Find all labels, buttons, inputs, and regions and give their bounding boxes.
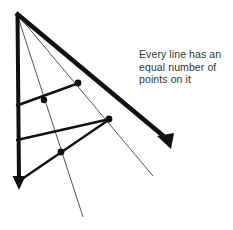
caption-text: Every line has an equal number of points…: [139, 48, 233, 86]
vertical-ray-line: [18, 14, 20, 180]
point-lower-thin-left: [58, 149, 65, 156]
thin-ray-right-line: [17, 14, 153, 176]
thin-rays: [17, 14, 153, 217]
point-middle-diagonal: [106, 116, 113, 123]
arrowhead-down-icon: [13, 176, 26, 190]
transversal-lines: [17, 83, 110, 181]
intersection-points: [41, 80, 113, 156]
point-upper-thin-left: [41, 97, 47, 103]
transversal-upper-line: [17, 83, 79, 106]
point-upper-diagonal: [75, 80, 82, 87]
thin-ray-left-line: [17, 14, 83, 217]
line-diagram: [0, 0, 233, 230]
